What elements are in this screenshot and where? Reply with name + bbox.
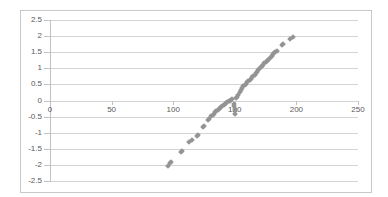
y-axis-tick-label: 2.5 xyxy=(12,15,42,24)
y-axis-tick-label: -1 xyxy=(12,128,42,137)
y-axis-tick xyxy=(44,133,51,134)
gridline-horizontal xyxy=(50,181,358,182)
x-axis-tick-label: 0 xyxy=(35,105,65,114)
gridline-horizontal xyxy=(50,165,358,166)
y-axis-tick xyxy=(44,149,51,150)
x-axis-tick-label: 250 xyxy=(343,105,373,114)
gridline-horizontal xyxy=(50,149,358,150)
y-axis-tick-label: 0.5 xyxy=(12,79,42,88)
gridline-horizontal xyxy=(50,84,358,85)
gridline-horizontal xyxy=(50,101,358,102)
y-axis-tick xyxy=(44,117,51,118)
y-axis-tick-label: 0 xyxy=(12,96,42,105)
gridline-horizontal xyxy=(50,52,358,53)
y-axis-tick xyxy=(44,52,51,53)
y-axis-tick xyxy=(44,84,51,85)
y-axis-tick xyxy=(44,165,51,166)
x-axis-tick-label: 100 xyxy=(158,105,188,114)
y-axis-tick-label: 2 xyxy=(12,31,42,40)
gridline-horizontal xyxy=(50,36,358,37)
y-axis-tick-label: -2 xyxy=(12,160,42,169)
gridline-horizontal xyxy=(50,68,358,69)
gridline-horizontal xyxy=(50,117,358,118)
y-axis-tick-label: 1.5 xyxy=(12,47,42,56)
y-axis-tick-label: -2.5 xyxy=(12,176,42,185)
gridline-horizontal xyxy=(50,20,358,21)
y-axis-tick xyxy=(44,181,51,182)
gridline-horizontal xyxy=(50,133,358,134)
y-axis-tick-label: 1 xyxy=(12,63,42,72)
y-axis-tick xyxy=(44,20,51,21)
y-axis-tick xyxy=(44,68,51,69)
y-axis-tick-label: -1.5 xyxy=(12,144,42,153)
x-axis-tick-label: 200 xyxy=(281,105,311,114)
x-axis-tick-label: 50 xyxy=(97,105,127,114)
y-axis-tick xyxy=(44,36,51,37)
chart-container: 2.521.510.50-0.5-1-1.5-2-2.5 05010015020… xyxy=(0,0,388,197)
